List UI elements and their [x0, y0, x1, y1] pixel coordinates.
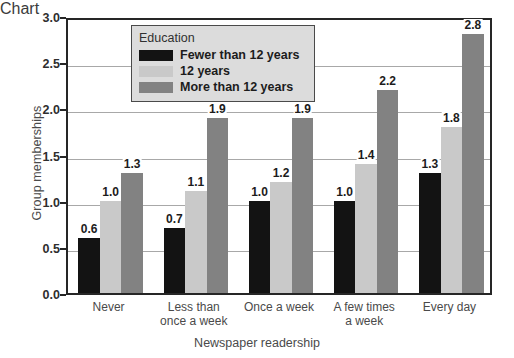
x-tick-label: Once a week — [236, 301, 321, 315]
bar[interactable]: 1.8 — [441, 127, 463, 293]
y-tick-label: 2.5 — [0, 57, 60, 71]
x-axis-title: Newspaper readership — [0, 336, 514, 350]
bar-value-label: 1.9 — [208, 103, 227, 116]
legend-entry[interactable]: 12 years — [139, 63, 307, 79]
legend-swatch — [139, 50, 173, 61]
bar-value-label: 1.8 — [442, 112, 461, 125]
legend-entry[interactable]: More than 12 years — [139, 79, 307, 95]
legend-swatch — [139, 82, 173, 93]
legend-entry[interactable]: Fewer than 12 years — [139, 47, 307, 63]
bar-chart-figure: Group memberships 0.00.51.01.52.02.53.0 … — [0, 0, 514, 358]
bar[interactable]: 2.2 — [377, 90, 399, 293]
bar[interactable]: 1.3 — [419, 173, 441, 293]
x-tick-label: Less than once a week — [151, 301, 236, 328]
bar-value-label: 1.9 — [293, 103, 312, 116]
y-tick-label: 0.0 — [0, 288, 60, 302]
bar-group: 1.31.82.8 — [419, 20, 484, 293]
legend-label: More than 12 years — [180, 80, 293, 94]
bar[interactable]: 1.0 — [100, 201, 122, 293]
x-tick-label: Never — [66, 301, 151, 315]
bar[interactable]: 1.1 — [185, 191, 207, 293]
bar-value-label: 2.8 — [464, 19, 483, 32]
bar[interactable]: 2.8 — [462, 34, 484, 293]
legend: Education Fewer than 12 years12 yearsMor… — [131, 25, 315, 102]
bar-value-label: 1.3 — [123, 158, 142, 171]
bar[interactable]: 1.2 — [270, 182, 292, 293]
bar[interactable]: 0.7 — [164, 228, 186, 293]
bar[interactable]: 1.9 — [292, 118, 314, 293]
legend-label: Fewer than 12 years — [180, 48, 300, 62]
bar[interactable]: 0.6 — [78, 238, 100, 293]
y-tick-label: 2.0 — [0, 103, 60, 117]
bar-value-label: 1.0 — [335, 186, 354, 199]
legend-entries: Fewer than 12 years12 yearsMore than 12 … — [139, 47, 307, 95]
bar-value-label: 2.2 — [378, 75, 397, 88]
bar-value-label: 1.4 — [357, 149, 376, 162]
bar-value-label: 1.1 — [186, 176, 205, 189]
y-tick-label: 0.5 — [0, 242, 60, 256]
bar-value-label: 0.7 — [165, 213, 184, 226]
bar-group: 1.01.42.2 — [334, 20, 399, 293]
bar[interactable]: 1.0 — [249, 201, 271, 293]
bar[interactable]: 1.3 — [121, 173, 143, 293]
y-tick-label: 1.5 — [0, 150, 60, 164]
y-tick-label: 3.0 — [0, 11, 60, 25]
x-tick-label: A few times a week — [322, 301, 407, 328]
legend-label: 12 years — [180, 64, 230, 78]
bar[interactable]: 1.9 — [207, 118, 229, 293]
bar-value-label: 1.2 — [272, 167, 291, 180]
bar-value-label: 1.0 — [101, 186, 120, 199]
bar[interactable]: 1.0 — [334, 201, 356, 293]
legend-swatch — [139, 66, 173, 77]
legend-title: Education — [139, 31, 307, 45]
bar[interactable]: 1.4 — [355, 164, 377, 293]
bar-value-label: 1.0 — [250, 186, 269, 199]
bar-value-label: 1.3 — [421, 158, 440, 171]
y-tick-label: 1.0 — [0, 196, 60, 210]
x-tick-label: Every day — [407, 301, 492, 315]
bar-value-label: 0.6 — [80, 223, 99, 236]
